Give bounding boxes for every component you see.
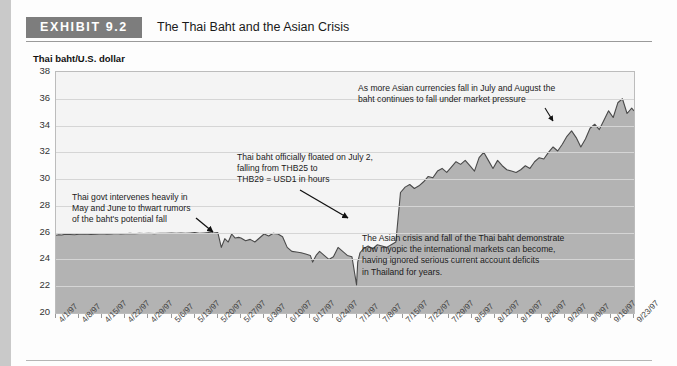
x-tick-9-23-97: 9/23/97 [635,299,661,325]
y-tick-26: 26 [30,226,50,237]
y-tick-20: 20 [30,306,50,317]
exhibit-title: The Thai Baht and the Asian Crisis [157,18,349,37]
annotation-july-august-fall: As more Asian currencies fall in July an… [358,83,555,105]
y-tick-32: 32 [30,145,50,156]
y-tick-38: 38 [30,65,50,76]
page-gutter [0,0,11,366]
header-divider [26,41,652,42]
gridline-22 [56,286,634,287]
exhibit-header: EXHIBIT 9.2 The Thai Baht and the Asian … [26,17,652,40]
annotation-asian-crisis-summary: The Asian crisis and fall of the Thai ba… [362,233,564,278]
y-tick-22: 22 [30,279,50,290]
y-tick-24: 24 [30,252,50,263]
x-axis-tick-labels: 4/1/974/8/974/15/974/22/974/29/975/6/975… [55,318,655,362]
annotation-baht-floated: Thai baht officially floated on July 2, … [237,152,373,186]
y-tick-28: 28 [30,199,50,210]
annotation-govt-intervention: Thai govt intervenes heavily in May and … [72,192,190,226]
y-tick-36: 36 [30,92,50,103]
y-tick-30: 30 [30,172,50,183]
y-axis-title: Thai baht/U.S. dollar [33,53,125,64]
exhibit-page: EXHIBIT 9.2 The Thai Baht and the Asian … [0,0,677,366]
exhibit-badge: EXHIBIT 9.2 [26,17,142,38]
page-bottom-divider [26,360,652,361]
gridline-34 [56,126,634,127]
y-axis-tick-labels: 20222426283032343638 [28,71,50,314]
y-tick-34: 34 [30,119,50,130]
